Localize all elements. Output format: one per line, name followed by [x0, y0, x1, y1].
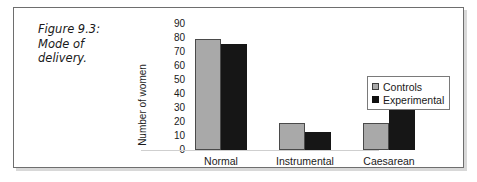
figure-caption-line-1: Figure 9.3: [38, 22, 130, 37]
bar-controls-instrumental [279, 123, 305, 150]
legend-item-controls: Controls [372, 80, 444, 93]
x-axis-tick-label: Instrumental [263, 155, 347, 167]
figure-frame: Figure 9.3: Mode of delivery. Number of … [13, 7, 464, 168]
bar-experimental-caesarean [389, 109, 415, 150]
figure-root: Figure 9.3: Mode of delivery. Number of … [0, 0, 477, 182]
y-axis-label: Number of women [137, 50, 151, 160]
chart-legend: Controls Experimental [367, 76, 450, 110]
figure-caption-line-3: delivery. [38, 51, 130, 66]
y-axis-tick-label: 70 [159, 47, 185, 57]
bar-experimental-normal [221, 44, 247, 150]
legend-label-controls: Controls [383, 81, 422, 93]
y-axis-tick-label: 50 [159, 75, 185, 85]
y-axis-tick-label: 80 [159, 33, 185, 43]
x-axis-tick-label: Caesarean [347, 155, 431, 167]
bar-experimental-instrumental [305, 132, 331, 150]
legend-item-experimental: Experimental [372, 93, 444, 106]
legend-swatch-controls-icon [372, 83, 379, 90]
y-axis-tick-label: 20 [159, 117, 185, 127]
x-axis-baseline [141, 150, 379, 151]
y-axis-tick-label: 60 [159, 61, 185, 71]
y-axis-tick-label: 40 [159, 89, 185, 99]
bar-group [273, 24, 337, 150]
bar-controls-normal [195, 39, 221, 150]
legend-label-experimental: Experimental [383, 94, 444, 106]
figure-caption: Figure 9.3: Mode of delivery. [38, 22, 130, 66]
figure-caption-line-2: Mode of [38, 37, 130, 52]
y-axis-tick-label: 30 [159, 103, 185, 113]
legend-swatch-experimental-icon [372, 96, 379, 103]
x-axis-tick-label: Normal [179, 155, 263, 167]
bar-group [189, 24, 253, 150]
y-axis-tick-label: 90 [159, 19, 185, 29]
bar-chart: Number of women 9080706050403020100 Norm… [141, 24, 471, 174]
bar-controls-caesarean [363, 123, 389, 150]
y-axis-tick-label: 10 [159, 131, 185, 141]
y-axis-ticks: 9080706050403020100 [159, 24, 185, 150]
